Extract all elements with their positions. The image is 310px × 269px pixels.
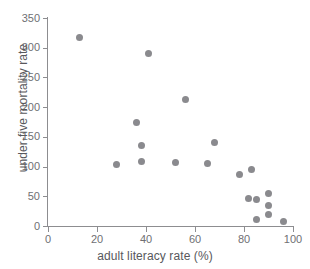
x-tick-mark xyxy=(293,227,294,232)
data-point xyxy=(280,218,287,225)
x-axis-title: adult literacy rate (%) xyxy=(0,249,310,263)
data-point xyxy=(248,166,255,173)
data-point xyxy=(236,171,243,178)
data-point xyxy=(113,161,120,168)
data-point xyxy=(76,34,83,41)
plot-area xyxy=(48,18,293,226)
data-point xyxy=(245,195,252,202)
x-tick-mark xyxy=(244,227,245,232)
y-axis-title: under-five mortality rate xyxy=(16,8,30,208)
data-point xyxy=(172,159,179,166)
data-point xyxy=(182,96,189,103)
data-point xyxy=(265,211,272,218)
data-point xyxy=(133,119,140,126)
x-tick-label: 0 xyxy=(28,234,68,245)
data-point xyxy=(211,139,218,146)
data-point xyxy=(145,50,152,57)
x-tick-mark xyxy=(195,227,196,232)
data-point xyxy=(138,158,145,165)
x-tick-label: 100 xyxy=(273,234,310,245)
y-tick-label: 0 xyxy=(4,221,40,232)
data-point xyxy=(265,202,272,209)
data-point xyxy=(204,160,211,167)
x-tick-label: 80 xyxy=(224,234,264,245)
data-point xyxy=(253,216,260,223)
scatter-chart-figure: 050100150200250300350 020406080100 adult… xyxy=(0,0,310,269)
x-tick-mark xyxy=(48,227,49,232)
x-tick-label: 40 xyxy=(126,234,166,245)
x-tick-label: 20 xyxy=(77,234,117,245)
data-point xyxy=(265,190,272,197)
data-point xyxy=(253,196,260,203)
x-tick-label: 60 xyxy=(175,234,215,245)
x-tick-mark xyxy=(146,227,147,232)
x-axis-line xyxy=(47,226,294,227)
data-point xyxy=(138,142,145,149)
x-tick-mark xyxy=(97,227,98,232)
